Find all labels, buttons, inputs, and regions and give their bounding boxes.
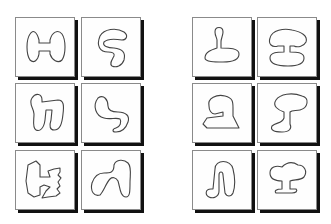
keyhole-shape-icon bbox=[193, 18, 251, 76]
mushroom-shape-icon bbox=[258, 18, 316, 76]
hook-shape-icon bbox=[82, 84, 140, 142]
h-shape-icon bbox=[16, 18, 74, 76]
panel-jagged-h-shape bbox=[15, 150, 75, 210]
inverted-u-shape-icon bbox=[193, 151, 251, 209]
panel-hook-shape bbox=[81, 83, 141, 143]
panel-keyhole-shape bbox=[192, 17, 252, 77]
panel-blob-n-shape bbox=[81, 150, 141, 210]
s-curl-shape-icon bbox=[82, 18, 140, 76]
panel-s-curl-shape bbox=[81, 17, 141, 77]
goblet-shape-icon bbox=[258, 84, 316, 142]
panel-boot-shape bbox=[192, 83, 252, 143]
boot-shape-icon bbox=[193, 84, 251, 142]
n-loop-shape-icon bbox=[16, 84, 74, 142]
panel-n-loop-shape bbox=[15, 83, 75, 143]
panel-tree-shape bbox=[257, 150, 317, 210]
panel-goblet-shape bbox=[257, 83, 317, 143]
jagged-h-shape-icon bbox=[16, 151, 74, 209]
panel-h-shape bbox=[15, 17, 75, 77]
panel-inverted-u-shape bbox=[192, 150, 252, 210]
blob-n-shape-icon bbox=[82, 151, 140, 209]
panel-mushroom-shape bbox=[257, 17, 317, 77]
tree-shape-icon bbox=[258, 151, 316, 209]
